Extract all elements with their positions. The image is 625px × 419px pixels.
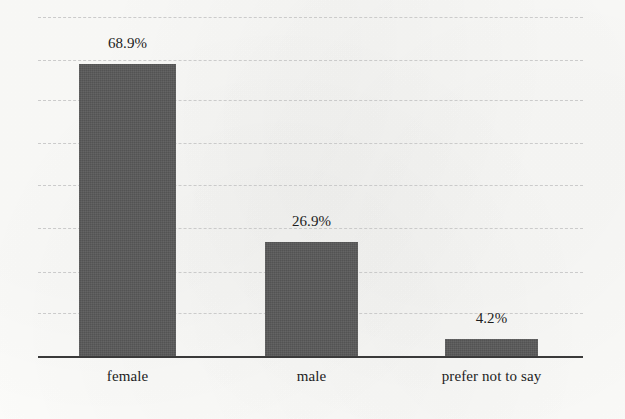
category-label-prefer-not-to-say: prefer not to say bbox=[402, 369, 582, 384]
category-label-female: female bbox=[38, 369, 218, 384]
plot-area bbox=[38, 0, 583, 358]
gridline bbox=[38, 60, 583, 61]
bar-female bbox=[79, 64, 176, 358]
category-label-male: male bbox=[222, 369, 402, 384]
value-label-prefer-not-to-say: 4.2% bbox=[432, 311, 552, 326]
value-label-male: 26.9% bbox=[252, 214, 372, 229]
bar-male bbox=[265, 242, 358, 358]
gridline bbox=[38, 17, 583, 18]
bar-chart-figure: 68.9% 26.9% 4.2% female male prefer not … bbox=[0, 0, 625, 419]
value-label-female: 68.9% bbox=[68, 36, 188, 51]
x-axis-line bbox=[38, 356, 583, 358]
